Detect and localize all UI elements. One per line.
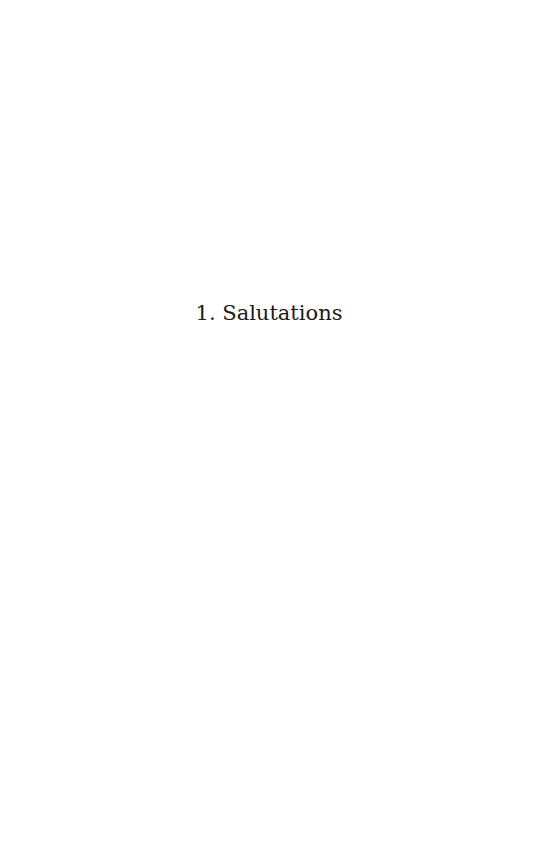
- document-page: 1. Salutations: [0, 0, 538, 862]
- section-heading: 1. Salutations: [0, 301, 538, 325]
